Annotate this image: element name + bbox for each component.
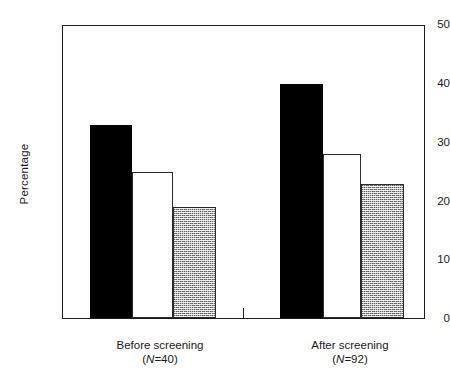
group-label-after-text: After screening xyxy=(311,339,388,351)
n-value-before: =40 xyxy=(154,353,174,365)
bar-chart-figure: Percentage 50 40 30 20 10 0 Before scree… xyxy=(0,0,450,376)
before-solid-bar xyxy=(90,125,132,318)
group-label-before-text: Before screening xyxy=(117,339,204,351)
x-axis-center-tick xyxy=(243,308,244,319)
before-stipple-bar xyxy=(173,207,216,318)
before-open-bar xyxy=(132,172,173,318)
plot-area xyxy=(62,25,425,319)
y-axis-title: Percentage xyxy=(18,114,30,234)
group-label-before: Before screening (N=40) xyxy=(70,338,250,366)
group-label-before-n: (N=40) xyxy=(70,352,250,366)
after-solid-bar xyxy=(280,84,323,318)
n-value-after: =92 xyxy=(344,353,364,365)
group-label-after-n: (N=92) xyxy=(260,352,440,366)
after-open-bar xyxy=(323,154,361,318)
group-label-after: After screening (N=92) xyxy=(260,338,440,366)
after-stipple-bar xyxy=(361,184,404,318)
